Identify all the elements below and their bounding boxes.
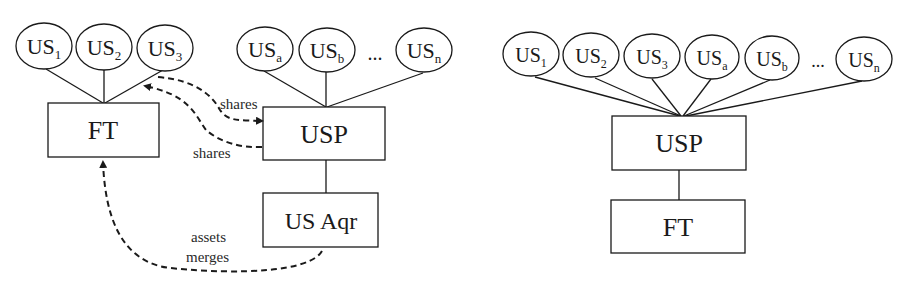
us-node-n: USn [396,28,452,72]
r-us-node-3: US3 [624,34,680,78]
edge-us3-ft [105,70,163,103]
ellipsis-right: ... [811,51,825,71]
svg-text:USP: USP [655,129,703,158]
us-node-b: USb [299,28,355,72]
label-shares-top: shares [220,96,258,112]
right-us-nodes: US1 US2 US3 USa USb ... USn [503,32,892,81]
label-shares-bottom: shares [193,145,231,161]
edge-usn-usp [327,73,423,107]
label-merges: merges [186,249,229,265]
diagram-canvas: US1 US2 US3 USa USb ... USn FT USP [0,0,907,281]
r-us-node-n: USn [836,37,892,81]
svg-text:USP: USP [300,120,348,149]
edge-us1-ft [46,69,103,103]
r-us-node-1: US1 [503,32,559,76]
ellipsis-left: ... [368,42,383,64]
usp-box-left: USP [263,107,385,160]
edge-r-us3-usp [652,79,681,116]
left-us-nodes: US1 US2 US3 USa USb ... USn [16,23,452,72]
svg-text:US Aqr: US Aqr [285,208,358,234]
svg-text:FT: FT [88,116,118,145]
ft-box-right: FT [611,200,745,253]
ft-box-left: FT [48,103,159,157]
r-us-node-b: USb [745,36,799,80]
edge-usa-usp [264,71,326,107]
edge-r-usn-usp [686,81,862,116]
us-node-a: USa [237,27,293,71]
us-node-1: US1 [16,23,72,69]
us-node-2: US2 [76,24,132,70]
r-us-node-2: US2 [563,33,619,77]
label-assets: assets [191,229,226,245]
us-node-3: US3 [137,25,193,71]
us-aqr-box: US Aqr [263,193,378,247]
usp-box-right: USP [612,116,746,170]
r-us-node-a: USa [685,35,739,79]
svg-text:FT: FT [663,213,693,242]
